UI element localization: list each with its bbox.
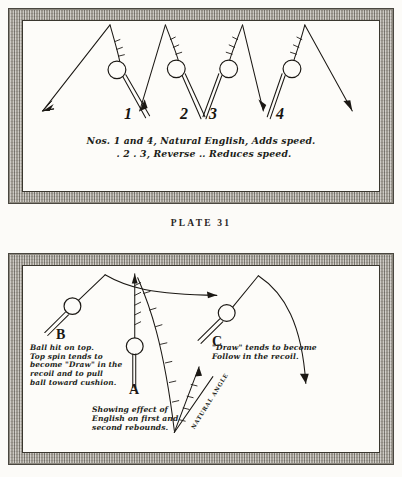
ball-label-a: A [129, 382, 139, 398]
ball-label-b: B [56, 327, 65, 343]
plate-number-label: PLATE 31 [0, 218, 402, 228]
caption-line-2: . 2 . 3, Reverse .. Reduces speed. [23, 147, 379, 160]
shot-number-2: 2 [180, 105, 188, 123]
billiard-table-frame-top: 1 2 3 4 Nos. 1 and 4, Natural English, A… [8, 8, 394, 204]
shot-number-4: 4 [276, 105, 284, 123]
natural-angle-label: NATURAL ANGLE [190, 372, 229, 430]
top-diagram-caption: Nos. 1 and 4, Natural English, Adds spee… [23, 134, 379, 161]
billiard-table-frame-bottom: B A C Ball hit on top. Top spin tends to… [8, 253, 394, 465]
shot-number-1: 1 [124, 105, 132, 123]
caption-ball-c: "Draw" tends to become Follow in the rec… [212, 344, 317, 362]
caption-line-1: Nos. 1 and 4, Natural English, Adds spee… [86, 135, 315, 146]
billiard-table-bed-top: 1 2 3 4 Nos. 1 and 4, Natural English, A… [22, 20, 380, 192]
shot3-rebound-line [243, 25, 264, 111]
plate-page: 1 2 3 4 Nos. 1 and 4, Natural English, A… [0, 0, 402, 477]
top-diagram-strokes [23, 21, 379, 191]
shot4-rebound-line [305, 25, 352, 111]
ballB-path [78, 275, 105, 300]
shot1-rebound-line [43, 25, 110, 111]
billiard-table-bed-bottom: B A C Ball hit on top. Top spin tends to… [22, 265, 380, 453]
shot-number-3: 3 [209, 105, 217, 123]
ballC-path [233, 276, 259, 307]
caption-ball-a: Showing effect of English on first and s… [92, 406, 178, 433]
caption-ball-b: Ball hit on top. Top spin tends to becom… [30, 344, 122, 388]
shot2-rebound-line [140, 25, 166, 111]
